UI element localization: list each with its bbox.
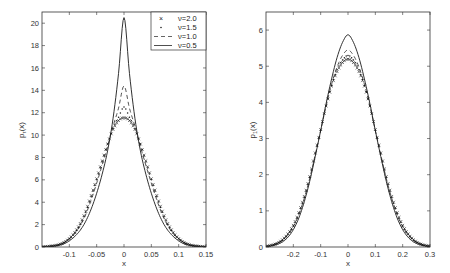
- left-y-axis-label: pτ(x): [17, 122, 27, 138]
- y-tick-label: 5: [259, 62, 263, 71]
- plot-area: [41, 18, 208, 249]
- y-tick-label: 6: [35, 175, 39, 184]
- y-tick-label: 2: [35, 220, 39, 229]
- y-tick-label: 10: [31, 131, 39, 140]
- y-tick-label: 16: [31, 64, 39, 73]
- x-tick-label: 0.05: [144, 250, 159, 259]
- x-tick-label: -0.05: [88, 250, 105, 259]
- x-tick-label: 0: [346, 250, 350, 259]
- x-tick-label: 0.3: [425, 250, 435, 259]
- x-tick-label: 0: [122, 250, 126, 259]
- legend-label-nu2: ν=2.0: [178, 14, 197, 23]
- legend-label-nu05: ν=0.5: [178, 41, 197, 50]
- y-tick-label: 12: [31, 108, 39, 117]
- x-tick-label: -0.2: [287, 250, 300, 259]
- right-plot: -0.2-0.100.10.20.30123456: [259, 12, 435, 259]
- x-tick-label: -0.1: [63, 250, 76, 259]
- y-tick-label: 0: [259, 243, 263, 252]
- right-x-axis-label: x: [346, 259, 350, 268]
- legend: × ν=2.0 ν=1.5 ν=1.0 ν=0.5: [151, 12, 206, 50]
- series-dot-marker: [265, 55, 431, 247]
- chart-figure: -0.1-0.0500.050.10.1502468101214161820 -…: [0, 0, 450, 273]
- x-tick-label: 0.1: [370, 250, 380, 259]
- y-tick-label: 4: [259, 98, 263, 107]
- legend-marker-dot: [160, 27, 162, 29]
- y-tick-label: 2: [259, 170, 263, 179]
- series-dot-marker: [41, 106, 207, 247]
- y-tick-label: 0: [35, 243, 39, 252]
- series-x-marker: [41, 116, 208, 248]
- series-solid: [266, 35, 430, 247]
- series-dashed: [266, 50, 430, 246]
- legend-label-nu1: ν=1.0: [178, 32, 197, 41]
- series-solid: [42, 18, 206, 247]
- x-tick-label: 0.15: [199, 250, 214, 259]
- y-tick-label: 14: [31, 86, 39, 95]
- series-x-marker: [265, 58, 432, 248]
- y-tick-label: 6: [259, 26, 263, 35]
- svg-text:p1(x): p1(x): [248, 121, 258, 138]
- y-tick-label: 8: [35, 153, 39, 162]
- x-tick-label: 0.2: [397, 250, 407, 259]
- svg-text:pτ(x): pτ(x): [17, 122, 27, 138]
- y-tick-label: 4: [35, 198, 39, 207]
- y-tick-label: 1: [259, 206, 263, 215]
- x-tick-label: -0.1: [314, 250, 327, 259]
- left-x-axis-label: x: [122, 259, 126, 268]
- right-y-axis-label: p1(x): [248, 121, 258, 138]
- y-tick-label: 18: [31, 41, 39, 50]
- legend-label-nu15: ν=1.5: [178, 23, 197, 32]
- plot-area: [265, 35, 432, 248]
- axes-frame: [266, 12, 430, 247]
- x-tick-label: 0.1: [173, 250, 183, 259]
- legend-marker-x: ×: [159, 15, 163, 22]
- series-dashed: [42, 86, 206, 247]
- y-tick-label: 20: [31, 19, 39, 28]
- y-tick-label: 3: [259, 134, 263, 143]
